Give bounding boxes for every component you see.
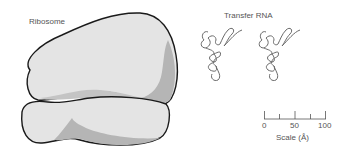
ribosome-large-subunit	[27, 13, 177, 105]
trna-molecule-2	[259, 28, 300, 80]
scale-tick-0: 0	[262, 121, 266, 130]
trna-molecule-1	[201, 28, 242, 80]
scale-tick-100: 100	[318, 121, 331, 130]
ribosome-small-subunit	[22, 97, 170, 145]
trna-label: Transfer RNA	[224, 11, 273, 20]
scale-title: Scale (Å)	[276, 133, 309, 142]
scale-bar	[264, 111, 326, 119]
ribosome-label: Ribosome	[29, 17, 65, 26]
scale-tick-50: 50	[290, 121, 299, 130]
